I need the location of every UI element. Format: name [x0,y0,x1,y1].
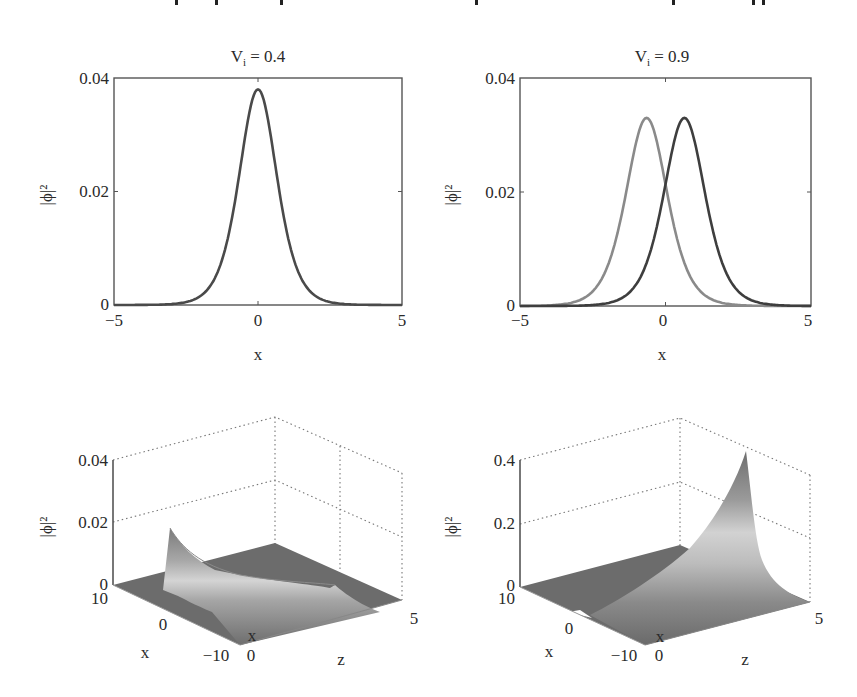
z-axis-label: |ϕ|² [442,517,461,538]
x-tick-label: 0 [659,311,668,330]
y-tick-label: 0.04 [485,69,515,88]
x-axis-label-small: x [248,626,257,645]
text-fragment [475,0,478,5]
axes-frame [520,78,811,306]
x-tick-label: 0 [159,615,168,634]
y-tick-label: 0.02 [485,183,515,202]
x-tick-label: 0 [565,619,574,638]
grid-top-edge [113,417,402,473]
y-tick-label: 0 [247,646,256,665]
y-axis-label: |ϕ|² [37,185,56,206]
plot-bottom-right-surface: 0.4 0.2 0 10 0 −10 x x 0 5 z |ϕ|² [442,418,823,669]
data-series [520,118,811,306]
x-tick-label: −10 [203,646,230,665]
z-tick-label: 0.04 [78,451,108,470]
text-fragment [175,0,178,5]
x-tick-label: 5 [804,311,813,330]
plot-title: Vi = 0.9 [635,47,690,68]
x-tick-label: 5 [398,311,407,330]
y-axis-label: z [337,650,345,669]
x-axis-label: x [141,643,150,662]
x-tick-label: −5 [511,311,529,330]
text-fragment [762,0,765,5]
y-tick-label: 0.04 [79,69,109,88]
axes-frame [114,78,402,305]
line-series [520,118,811,306]
x-axis-label: x [545,642,554,661]
text-fragment [752,0,755,5]
figure-canvas: Vi = 0.4 0.04 0.02 0 −5 0 5 x |ϕ|² Vi = … [0,0,857,697]
plot-bottom-left-surface: 0.04 0.02 0 10 0 −10 x x 0 5 z |ϕ|² [37,417,418,669]
y-axis-label: z [741,650,749,669]
z-axis-label: |ϕ|² [37,517,56,538]
plot-top-left: Vi = 0.4 0.04 0.02 0 −5 0 5 x |ϕ|² [37,47,406,364]
y-tick-label: 0.02 [79,182,109,201]
x-tick-label: 0 [254,311,263,330]
x-axis-label: x [254,345,263,364]
plot-top-right: Vi = 0.9 0.04 0.02 0 −5 0 5 x |ϕ|² [442,47,812,364]
x-tick-label: 10 [498,589,515,608]
grid-mid-edge [520,482,810,538]
x-tick-label: 10 [91,589,108,608]
data-series [114,89,402,305]
x-axis-label-small: x [656,627,665,646]
y-tick-label: 5 [815,609,824,628]
plot-title: Vi = 0.4 [231,47,286,68]
text-fragment [672,0,675,5]
text-fragment [280,0,283,5]
z-tick-label: 0.02 [78,513,108,532]
cropped-text-fragments [175,0,765,5]
grid-top-edge [520,418,810,475]
surface-soliton [590,451,810,645]
line-series [520,118,811,306]
x-axis-label: x [658,345,667,364]
z-tick-label: 0.2 [494,514,515,533]
grid-mid-edge [113,480,402,537]
y-tick-label: 5 [410,609,419,628]
y-axis-label: |ϕ|² [442,185,461,206]
y-tick-label: 0 [655,646,664,665]
line-series [114,89,402,305]
x-tick-label: −5 [105,311,123,330]
text-fragment [215,0,218,5]
x-tick-label: −10 [611,646,638,665]
z-tick-label: 0.4 [494,451,516,470]
